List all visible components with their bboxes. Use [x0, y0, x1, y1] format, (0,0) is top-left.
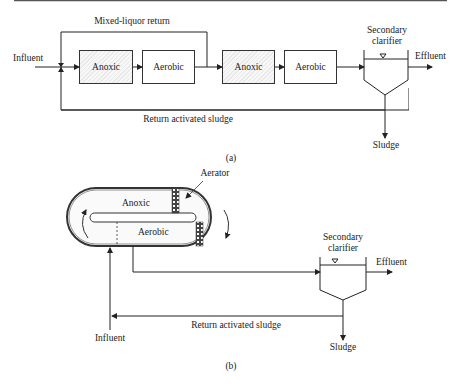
clarifier-label-a-line1: Secondary: [367, 25, 407, 36]
anoxic-zone-label: Anoxic: [122, 198, 150, 209]
clarifier-label-b-line2: clarifier: [328, 243, 358, 254]
mixed-liquor-return-label: Mixed-liquor return: [94, 16, 170, 27]
return-sludge-label-a: Return activated sludge: [143, 114, 233, 125]
caption-a: (a): [226, 153, 237, 164]
return-sludge-label-b: Return activated sludge: [191, 320, 281, 331]
clarifier-label-a-line2: clarifier: [372, 36, 402, 47]
influent-label-b: Influent: [95, 333, 125, 344]
diagram-a-lines: [35, 32, 432, 138]
aerobic-tank-2-label: Aerobic: [295, 62, 326, 72]
aerobic-tank-2: Aerobic: [284, 50, 337, 84]
effluent-label-b: Effluent: [376, 257, 407, 268]
anoxic-tank-1: Anoxic: [79, 50, 133, 84]
aerobic-tank-1-label: Aerobic: [153, 62, 184, 72]
aerobic-zone-label: Aerobic: [138, 227, 169, 238]
effluent-label-a: Effluent: [415, 51, 446, 62]
caption-b: (b): [225, 361, 236, 372]
clarifier-label-b-line1: Secondary: [323, 232, 363, 243]
aerator-label: Aerator: [200, 168, 229, 179]
anoxic-tank-2: Anoxic: [222, 50, 275, 84]
sludge-label-b: Sludge: [330, 342, 356, 353]
aerobic-tank-1: Aerobic: [142, 50, 195, 84]
sludge-label-a: Sludge: [373, 140, 399, 151]
influent-label-a: Influent: [13, 53, 43, 64]
anoxic-tank-2-label: Anoxic: [235, 62, 263, 72]
anoxic-tank-1-label: Anoxic: [92, 62, 120, 72]
